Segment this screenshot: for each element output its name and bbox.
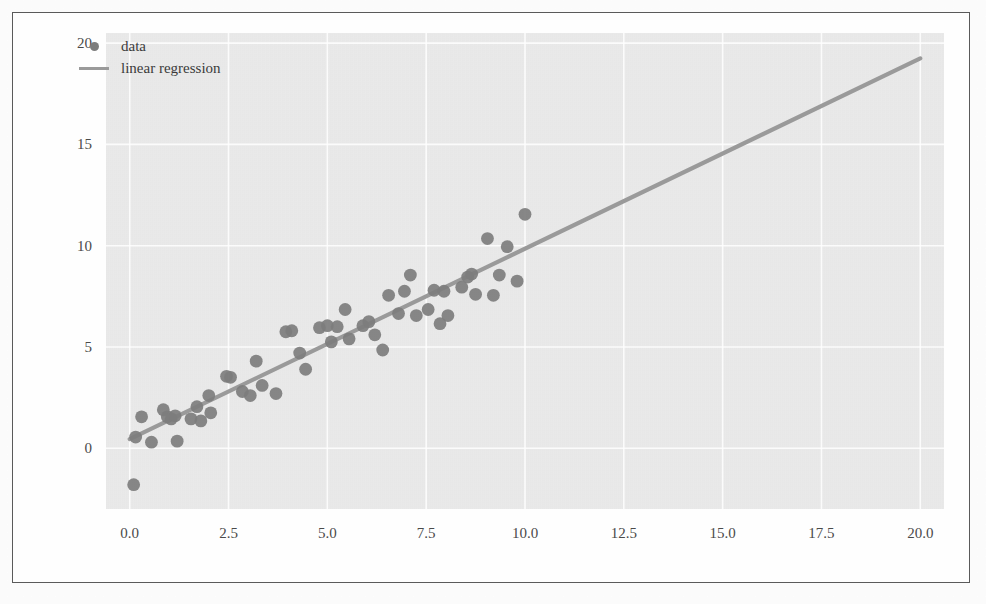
line-marker-icon xyxy=(73,57,115,79)
data-point xyxy=(368,328,381,341)
legend-label-linear-regression: linear regression xyxy=(115,57,221,79)
data-point xyxy=(145,436,158,449)
y-tick-label: 0 xyxy=(44,440,92,457)
data-point xyxy=(519,208,532,221)
x-tick-label: 20.0 xyxy=(907,525,933,542)
x-tick-label: 12.5 xyxy=(611,525,637,542)
data-point xyxy=(392,307,405,320)
y-tick-label: 5 xyxy=(44,338,92,355)
data-point xyxy=(270,387,283,400)
data-point xyxy=(469,288,482,301)
x-tick-label: 2.5 xyxy=(219,525,238,542)
data-point xyxy=(127,478,140,491)
data-point xyxy=(299,363,312,376)
x-tick-label: 10.0 xyxy=(512,525,538,542)
data-point xyxy=(376,344,389,357)
data-point xyxy=(331,320,344,333)
data-point xyxy=(438,285,451,298)
data-point xyxy=(285,324,298,337)
legend-label-data: data xyxy=(115,35,146,57)
data-point xyxy=(194,414,207,427)
data-point xyxy=(501,240,514,253)
data-point xyxy=(202,389,215,402)
x-tick-label: 7.5 xyxy=(417,525,436,542)
scatter-plot-figure: 05101520 0.02.55.07.510.012.515.017.520.… xyxy=(13,13,969,582)
figure-frame: 05101520 0.02.55.07.510.012.515.017.520.… xyxy=(12,12,970,583)
data-point xyxy=(325,335,338,348)
data-point xyxy=(256,379,269,392)
plot-canvas xyxy=(106,33,944,509)
data-point xyxy=(511,275,524,288)
data-point xyxy=(191,400,204,413)
x-tick-label: 15.0 xyxy=(710,525,736,542)
data-point xyxy=(169,409,182,422)
data-point xyxy=(204,406,217,419)
data-point xyxy=(398,285,411,298)
legend-item-linear-regression: linear regression xyxy=(73,57,221,79)
data-point xyxy=(404,269,417,282)
x-tick-label: 5.0 xyxy=(318,525,337,542)
data-point xyxy=(410,309,423,322)
data-point xyxy=(339,303,352,316)
data-point xyxy=(129,431,142,444)
plot-area xyxy=(106,33,944,509)
data-point xyxy=(442,309,455,322)
data-point xyxy=(135,410,148,423)
x-tick-label: 17.5 xyxy=(808,525,834,542)
data-point xyxy=(244,389,257,402)
x-tick-label: 0.0 xyxy=(120,525,139,542)
data-point xyxy=(465,268,478,281)
data-point xyxy=(382,289,395,302)
data-point xyxy=(487,289,500,302)
data-point xyxy=(362,315,375,328)
legend: data linear regression xyxy=(73,35,221,79)
legend-item-data: data xyxy=(73,35,221,57)
y-tick-label: 10 xyxy=(44,237,92,254)
data-point xyxy=(293,347,306,360)
data-point xyxy=(493,269,506,282)
data-point xyxy=(250,355,263,368)
y-tick-label: 15 xyxy=(44,136,92,153)
data-point xyxy=(171,435,184,448)
data-point xyxy=(343,332,356,345)
data-point xyxy=(224,371,237,384)
data-point xyxy=(481,232,494,245)
data-point xyxy=(422,303,435,316)
circle-marker-icon xyxy=(73,35,115,57)
